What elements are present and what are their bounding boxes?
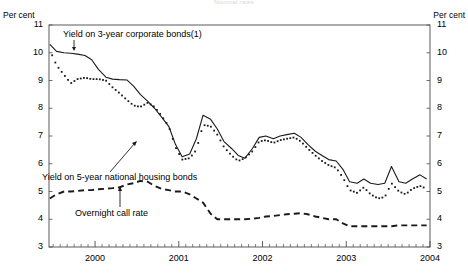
- series-point-housing: [394, 186, 396, 188]
- series-point-housing: [159, 113, 161, 115]
- series-point-housing: [131, 103, 133, 105]
- chart-container: Nominal rates Per cent Per cent 11109876…: [0, 0, 468, 276]
- series-point-housing: [251, 151, 253, 153]
- annotation-call-rate: Overnight call rate: [75, 208, 148, 218]
- series-point-housing: [93, 78, 95, 80]
- series-point-housing: [197, 142, 199, 144]
- series-point-housing: [58, 67, 60, 69]
- series-point-housing: [166, 122, 168, 124]
- series-point-housing: [172, 138, 174, 140]
- series-point-housing: [121, 95, 123, 97]
- series-point-housing: [210, 126, 212, 128]
- series-point-housing: [359, 190, 361, 192]
- series-point-housing: [67, 79, 69, 81]
- series-point-housing: [397, 190, 399, 192]
- series-point-housing: [54, 62, 56, 64]
- series-point-housing: [321, 160, 323, 162]
- series-point-housing: [96, 78, 98, 80]
- series-point-housing: [105, 80, 107, 82]
- series-point-housing: [267, 140, 269, 142]
- series-point-housing: [83, 77, 85, 79]
- series-line-corporate: [50, 44, 427, 184]
- series-point-housing: [248, 154, 250, 156]
- series-point-housing: [391, 183, 393, 185]
- series-point-housing: [137, 105, 139, 107]
- series-point-housing: [264, 139, 266, 141]
- series-point-housing: [181, 159, 183, 161]
- series-point-housing: [416, 186, 418, 188]
- series-point-housing: [226, 149, 228, 151]
- series-point-housing: [153, 106, 155, 108]
- series-point-housing: [124, 97, 126, 99]
- series-point-housing: [410, 189, 412, 191]
- series-point-housing: [353, 191, 355, 193]
- series-point-housing: [61, 71, 63, 73]
- series-point-housing: [296, 138, 298, 140]
- series-point-housing: [89, 78, 91, 80]
- series-point-housing: [77, 78, 79, 80]
- series-point-housing: [375, 196, 377, 198]
- series-point-housing: [147, 102, 149, 104]
- series-point-housing: [134, 105, 136, 107]
- series-point-housing: [270, 141, 272, 143]
- series-point-housing: [385, 195, 387, 197]
- series-point-housing: [366, 189, 368, 191]
- series-point-housing: [188, 157, 190, 159]
- series-point-housing: [381, 197, 383, 199]
- series-point-housing: [413, 187, 415, 189]
- series-point-housing: [369, 192, 371, 194]
- series-point-housing: [239, 160, 241, 162]
- series-point-housing: [347, 185, 349, 187]
- series-point-housing: [372, 195, 374, 197]
- series-point-housing: [337, 169, 339, 171]
- series-point-housing: [74, 80, 76, 82]
- series-point-housing: [118, 92, 120, 94]
- series-point-housing: [223, 145, 225, 147]
- series-point-housing: [340, 174, 342, 176]
- series-point-housing: [378, 197, 380, 199]
- series-point-housing: [156, 109, 158, 111]
- series-point-housing: [302, 143, 304, 145]
- series-point-housing: [102, 79, 104, 81]
- series-point-housing: [51, 54, 53, 56]
- series-point-housing: [245, 156, 247, 158]
- series-point-housing: [312, 152, 314, 154]
- series-point-housing: [127, 100, 129, 102]
- series-point-housing: [143, 104, 145, 106]
- series-point-housing: [362, 187, 364, 189]
- series-point-housing: [401, 192, 403, 194]
- series-line-call-rate: [50, 181, 427, 226]
- series-point-housing: [254, 146, 256, 148]
- series-point-housing: [293, 137, 295, 139]
- series-point-housing: [318, 158, 320, 160]
- series-point-housing: [235, 158, 237, 160]
- series-point-housing: [283, 138, 285, 140]
- series-point-housing: [191, 155, 193, 157]
- series-point-housing: [169, 128, 171, 130]
- series-point-housing: [80, 78, 82, 80]
- series-point-housing: [277, 140, 279, 142]
- series-point-housing: [280, 139, 282, 141]
- series-point-housing: [99, 78, 101, 80]
- series-point-housing: [289, 137, 291, 139]
- series-point-housing: [315, 155, 317, 157]
- series-point-housing: [108, 83, 110, 85]
- series-point-housing: [305, 146, 307, 148]
- series-point-housing: [423, 187, 425, 189]
- annotation-corporate-bonds: Yield on 3-year corporate bonds(1): [63, 29, 202, 39]
- series-point-housing: [261, 140, 263, 142]
- series-point-housing: [201, 130, 203, 132]
- series-point-housing: [162, 117, 164, 119]
- series-point-housing: [70, 82, 72, 84]
- series-point-housing: [286, 138, 288, 140]
- annotation-housing-bonds: Yield on 5-year national housing bonds: [42, 172, 197, 182]
- series-point-housing: [150, 104, 152, 106]
- series-point-housing: [328, 164, 330, 166]
- series-point-housing: [350, 190, 352, 192]
- series-point-housing: [86, 77, 88, 79]
- series-point-housing: [258, 142, 260, 144]
- series-point-housing: [229, 153, 231, 155]
- series-point-housing: [140, 106, 142, 108]
- series-point-housing: [220, 140, 222, 142]
- annotation-leader-housing: [110, 143, 135, 172]
